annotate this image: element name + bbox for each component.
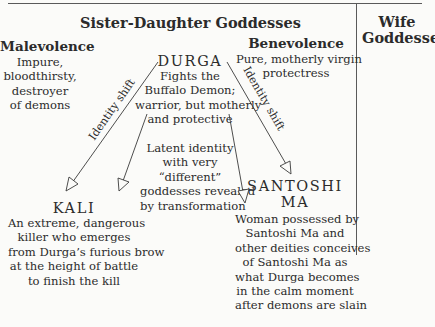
arrow-durga-to-kali bbox=[66, 62, 158, 191]
arrows-layer bbox=[0, 0, 435, 327]
arrow-latent-to-santoshi bbox=[229, 114, 249, 203]
arrow-latent-to-kali bbox=[118, 114, 147, 191]
